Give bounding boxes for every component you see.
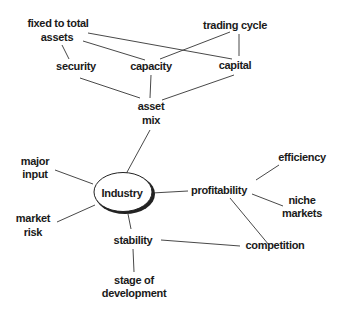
node-fixed-line2: assets bbox=[41, 31, 74, 43]
node-capital: capital bbox=[219, 59, 252, 71]
edge-fixed-security bbox=[62, 45, 69, 59]
node-stage-line2: development bbox=[102, 287, 167, 299]
node-trading-cycle: trading cycle bbox=[203, 19, 267, 31]
node-security: security bbox=[56, 60, 97, 72]
edge-capacity-assetmix bbox=[150, 75, 151, 98]
node-niche-markets-line2: markets bbox=[282, 207, 322, 219]
node-stage-line1: stage of bbox=[114, 274, 154, 286]
node-asset-mix-line2: mix bbox=[142, 114, 161, 126]
node-market-risk-line2: risk bbox=[24, 226, 44, 238]
edge-profitability-niche bbox=[252, 194, 283, 206]
edge-profitability-competition bbox=[230, 198, 269, 245]
node-niche-markets-line1: niche bbox=[288, 194, 315, 206]
edge-industry-profitability bbox=[152, 191, 188, 193]
node-competition: competition bbox=[245, 239, 305, 251]
edge-assetmix-industry bbox=[126, 130, 150, 174]
edge-fixed-capacity bbox=[83, 41, 145, 60]
nodes: fixed to total assets trading cycle secu… bbox=[16, 17, 327, 299]
node-profitability: profitability bbox=[191, 184, 248, 196]
node-capacity: capacity bbox=[130, 60, 173, 72]
edge-major-industry bbox=[55, 170, 93, 184]
mind-map-diagram: Industry fixed to total assets trading c… bbox=[0, 0, 339, 317]
node-efficiency: efficiency bbox=[278, 151, 327, 163]
edge-stability-competition bbox=[161, 240, 240, 246]
node-fixed-line1: fixed to total bbox=[27, 17, 88, 29]
edge-security-assetmix bbox=[80, 78, 140, 98]
edge-fixed-capital bbox=[88, 33, 232, 59]
edge-industry-stability bbox=[128, 214, 131, 229]
node-asset-mix-line1: asset bbox=[138, 100, 165, 112]
center-label: Industry bbox=[102, 187, 144, 199]
node-market-risk-line1: market bbox=[16, 212, 51, 224]
edge-market-industry bbox=[57, 205, 95, 222]
center-node-industry: Industry bbox=[94, 173, 155, 215]
edge-profitability-efficiency bbox=[256, 165, 279, 180]
node-major-input-line1: major bbox=[21, 155, 50, 167]
edge-capital-assetmix bbox=[162, 75, 234, 100]
node-stability: stability bbox=[114, 234, 154, 246]
edge-trading-capacity bbox=[160, 32, 230, 59]
edge-stability-stage bbox=[133, 249, 134, 272]
node-major-input-line2: input bbox=[22, 168, 48, 180]
